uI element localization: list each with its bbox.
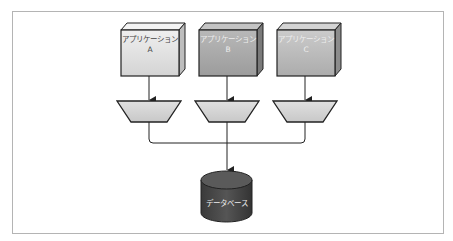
application-b-label: アプリケーション xyxy=(200,35,256,44)
application-a-label: アプリケーション xyxy=(122,35,178,44)
database-label: データベース xyxy=(206,198,248,208)
application-b-letter: B xyxy=(225,45,230,54)
application-c-letter: C xyxy=(303,45,308,54)
database-cylinder: データベース xyxy=(201,171,252,222)
application-c-box: アプリケーション C xyxy=(277,23,341,76)
application-a-box: アプリケーション A xyxy=(121,23,185,76)
application-c-label: アプリケーション xyxy=(278,35,334,44)
application-a-letter: A xyxy=(147,45,153,54)
architecture-diagram: アプリケーション A アプリケーション B アプリケーション C データベース xyxy=(0,0,453,241)
application-b-box: アプリケーション B xyxy=(199,23,263,76)
